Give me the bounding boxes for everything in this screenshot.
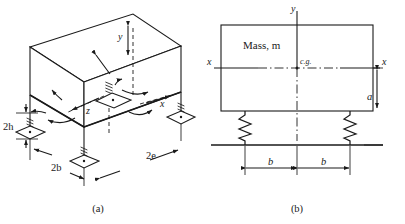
dimension-2h	[16, 104, 38, 148]
dimension-b-left-label: b	[268, 156, 273, 167]
dimension-b-right-label: b	[321, 156, 326, 167]
axis-x-right-label: x	[381, 56, 387, 67]
axis-y-label-b: y	[290, 3, 296, 14]
cg-label: c.g.	[300, 57, 312, 66]
cg-marker	[296, 67, 299, 70]
mass-label: Mass, m	[243, 39, 281, 51]
axis-x-left-label: x	[206, 56, 212, 67]
engineering-figure: y z x	[0, 0, 405, 224]
spring-right	[344, 111, 356, 145]
dimension-a-label: a	[367, 91, 372, 102]
dimension-2b-label: 2b	[51, 162, 62, 173]
panel-b: y x x c.g. Mass, m	[206, 3, 387, 215]
panel-a: y z x	[3, 14, 195, 215]
caption-a: (a)	[92, 203, 104, 215]
dimension-2e-label: 2e	[146, 150, 156, 161]
dimension-2h-label: 2h	[3, 121, 14, 132]
dimension-2e	[100, 124, 181, 178]
caption-b: (b)	[291, 203, 304, 215]
axis-x-label-a: x	[159, 98, 165, 109]
figure-container: y z x	[0, 0, 405, 224]
spring-left	[239, 111, 251, 145]
axis-z-label-a: z	[85, 105, 90, 116]
axis-y-label-a: y	[117, 31, 123, 42]
